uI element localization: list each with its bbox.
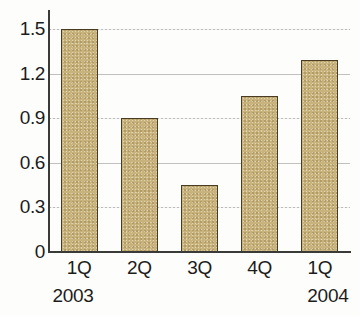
- x-tick-label: 1Q: [290, 258, 350, 277]
- x-tick-label: 4Q: [230, 258, 290, 277]
- x-group-label: 2004: [288, 286, 360, 305]
- x-tick-label: 1Q: [49, 258, 109, 277]
- bar-chart: 00.30.60.91.21.5 1Q20032Q3Q4Q1Q2004: [0, 0, 360, 316]
- x-tick-label: 2Q: [109, 258, 169, 277]
- x-group-label: 2003: [33, 286, 113, 305]
- x-axis-tick-labels: 1Q20032Q3Q4Q1Q2004: [0, 0, 360, 316]
- x-tick-label: 3Q: [170, 258, 230, 277]
